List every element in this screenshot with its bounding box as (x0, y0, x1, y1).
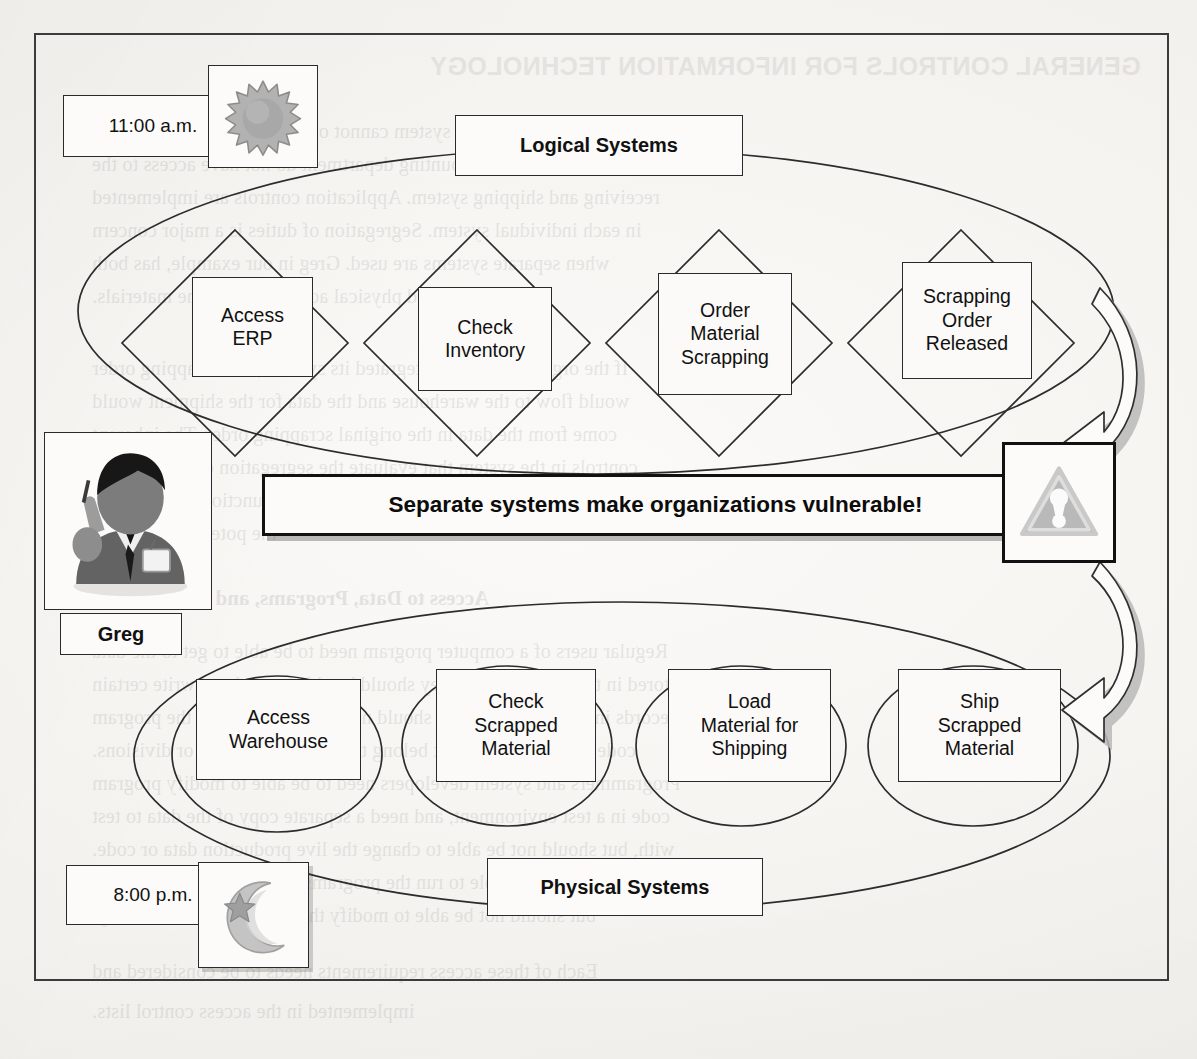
step-text: AccessWarehouse (229, 706, 328, 753)
actor-name-label[interactable]: Greg (60, 613, 182, 655)
step-text: CheckInventory (445, 316, 525, 363)
scanned-page: GENERAL CONTROLS FOR INFORMATION TECHNOL… (0, 0, 1197, 1059)
logical-step-label-2[interactable]: CheckInventory (418, 287, 552, 391)
physical-systems-label[interactable]: Physical Systems (487, 858, 763, 916)
sun-icon (224, 78, 302, 156)
lane-label-text: Logical Systems (520, 134, 678, 157)
warning-banner[interactable]: Separate systems make organizations vuln… (262, 474, 1049, 536)
sun-icon-frame (208, 65, 318, 168)
warning-triangle-icon (1016, 460, 1102, 546)
logical-step-label-1[interactable]: AccessERP (192, 277, 313, 377)
lane-label-text: Physical Systems (541, 876, 710, 899)
logical-step-label-4[interactable]: ScrappingOrderReleased (902, 262, 1032, 379)
moon-icon-frame (198, 862, 309, 968)
bleed-line-24: implemented in the access control lists. (92, 1000, 414, 1023)
banner-text: Separate systems make organizations vuln… (389, 492, 923, 518)
businessman-avatar-icon (54, 443, 202, 599)
time-text: 11:00 a.m. (109, 115, 197, 137)
step-text: LoadMaterial forShipping (701, 690, 799, 760)
time-text: 8:00 p.m. (113, 884, 192, 906)
step-text: OrderMaterialScrapping (681, 299, 769, 369)
step-text: ShipScrappedMaterial (938, 690, 1021, 760)
step-text: CheckScrappedMaterial (474, 690, 557, 760)
step-text: ScrappingOrderReleased (923, 285, 1011, 355)
actor-name-text: Greg (98, 623, 145, 646)
warning-icon-frame (1002, 442, 1116, 563)
moon-star-icon (212, 873, 296, 957)
logical-step-label-3[interactable]: OrderMaterialScrapping (658, 273, 792, 395)
step-text: AccessERP (221, 304, 284, 351)
physical-step-label-1[interactable]: AccessWarehouse (196, 679, 361, 780)
logical-systems-label[interactable]: Logical Systems (455, 115, 743, 176)
physical-step-label-2[interactable]: CheckScrappedMaterial (436, 669, 596, 782)
physical-step-label-4[interactable]: ShipScrappedMaterial (898, 669, 1061, 782)
physical-step-label-3[interactable]: LoadMaterial forShipping (668, 669, 831, 782)
actor-avatar-frame (44, 432, 212, 610)
